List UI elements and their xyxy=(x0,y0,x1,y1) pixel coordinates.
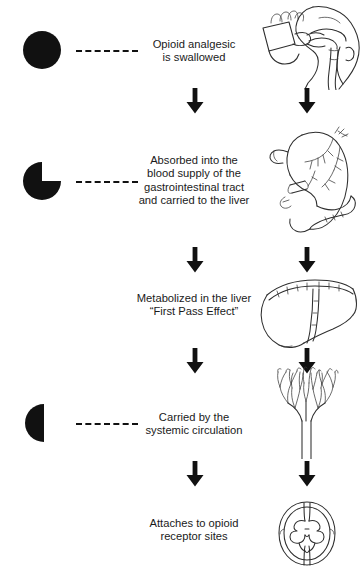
illustration-cell-absorbed xyxy=(250,124,364,244)
stage-receptors: Attaches to opioid receptor sites xyxy=(0,498,364,572)
spinal-cord-cross-section-icon xyxy=(271,499,343,569)
drug-icon-cell-circulated xyxy=(14,403,70,443)
drug-icon-cell-absorbed xyxy=(14,161,70,201)
flow-arrow-down-icon xyxy=(184,461,206,487)
illustration-cell-receptors xyxy=(250,498,364,570)
flow-arrow-down-icon xyxy=(296,88,318,114)
stage-metabolized: Metabolized in the liver “First Pass Eff… xyxy=(0,276,364,352)
full-circle-tablet-icon xyxy=(22,30,62,70)
illustration-cell-circulated xyxy=(250,364,364,460)
flow-arrow-down-icon xyxy=(184,88,206,114)
stage-swallowed: Opioid analgesic is swallowed xyxy=(0,0,364,92)
head-swallowing-icon xyxy=(251,4,363,90)
stage-circulated: Carried by the systemic circulation xyxy=(0,366,364,462)
three-quarter-circle-tablet-icon xyxy=(22,161,62,201)
illustration-cell-swallowed xyxy=(250,4,364,90)
half-circle-tablet-icon xyxy=(22,403,62,443)
flow-arrow-down-icon xyxy=(296,247,318,273)
flow-arrow-down-icon xyxy=(184,247,206,273)
drug-icon-cell-swallowed xyxy=(14,30,70,70)
stomach-icon xyxy=(255,125,359,243)
illustration-cell-metabolized xyxy=(250,276,364,352)
vascular-tree-icon xyxy=(259,365,355,459)
liver-icon xyxy=(257,277,357,351)
stage-absorbed: Absorbed into the blood supply of the ga… xyxy=(0,124,364,248)
flow-arrow-down-icon xyxy=(296,461,318,487)
